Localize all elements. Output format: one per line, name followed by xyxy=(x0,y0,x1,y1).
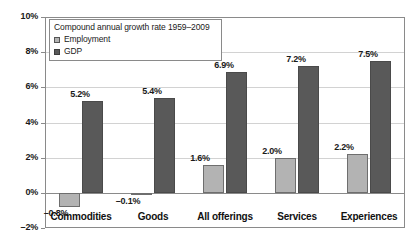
bar-value-label: –0.1% xyxy=(105,196,151,206)
y-axis-tick-label: 2% xyxy=(0,152,38,162)
category-label: All offerings xyxy=(189,211,261,222)
bar-employment[interactable] xyxy=(275,158,296,193)
grouped-bar-chart: 10%8%6%4%2%0%–2% –0.8%5.2%–0.1%5.4%1.6%6… xyxy=(0,0,417,248)
legend: Compound annual growth rate 1959–2009 Em… xyxy=(49,19,222,61)
bar-employment[interactable] xyxy=(59,193,80,207)
category-label: Experiences xyxy=(333,211,405,222)
legend-item-label: GDP xyxy=(64,46,82,57)
bar-employment[interactable] xyxy=(131,193,152,195)
bar-gdp[interactable] xyxy=(226,72,247,193)
y-axis-tick-label: 0% xyxy=(0,187,38,197)
bar-value-label: 2.0% xyxy=(249,146,295,156)
bar-gdp[interactable] xyxy=(82,101,103,192)
bar-employment[interactable] xyxy=(203,165,224,193)
y-axis-tick-label: –2% xyxy=(0,222,38,232)
bar-value-label: 2.2% xyxy=(321,142,367,152)
gdp-swatch xyxy=(54,49,60,55)
bar-group: 2.2%7.5% xyxy=(333,17,405,228)
y-axis-tick-label: 8% xyxy=(0,46,38,56)
bar-group: 2.0%7.2% xyxy=(261,17,333,228)
employment-swatch xyxy=(54,37,60,43)
bar-value-label: 6.9% xyxy=(201,60,247,70)
bar-employment[interactable] xyxy=(347,154,368,193)
category-axis: CommoditiesGoodsAll offeringsServicesExp… xyxy=(45,206,405,228)
legend-item-gdp: GDP xyxy=(54,46,218,57)
bar-gdp[interactable] xyxy=(370,61,391,193)
bar-gdp[interactable] xyxy=(154,98,175,193)
bar-value-label: 5.4% xyxy=(129,86,175,96)
y-axis-tick-label: 4% xyxy=(0,117,38,127)
y-axis-tick-mark xyxy=(41,228,45,229)
bar-value-label: 7.5% xyxy=(345,49,391,59)
category-label: Goods xyxy=(117,211,189,222)
category-label: Services xyxy=(261,211,333,222)
category-label: Commodities xyxy=(45,211,117,222)
y-axis-tick-label: 6% xyxy=(0,81,38,91)
bar-value-label: 1.6% xyxy=(177,153,223,163)
legend-item-employment: Employment xyxy=(54,34,218,45)
legend-item-label: Employment xyxy=(64,34,110,45)
bar-gdp[interactable] xyxy=(298,66,319,193)
bar-value-label: 5.2% xyxy=(57,89,103,99)
y-axis-tick-label: 10% xyxy=(0,11,38,21)
legend-title: Compound annual growth rate 1959–2009 xyxy=(54,22,218,33)
bar-value-label: 7.2% xyxy=(273,54,319,64)
